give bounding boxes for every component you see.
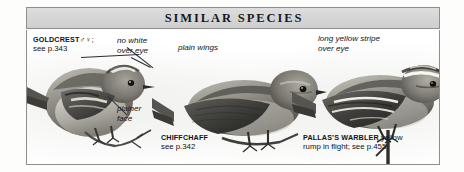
sex-symbols-goldcrest: ♂♀ bbox=[79, 35, 91, 44]
annotation-no-white-over-eye-line1: no white bbox=[117, 36, 148, 46]
annotation-plain-wings: plain wings bbox=[178, 43, 218, 53]
annotation-plain-wings-line1: plain wings bbox=[178, 43, 218, 53]
species-page-ref-pallass-warbler[interactable]: rump in flight; see p.455 bbox=[303, 142, 403, 151]
species-page-ref-goldcrest[interactable]: see p.343 bbox=[33, 44, 94, 53]
goldcrest-punct: ; bbox=[91, 35, 93, 44]
species-caption-pallass-warbler: PALLAS’S WARBLER yellow rump in flight; … bbox=[303, 133, 403, 152]
species-caption-goldcrest: GOLDCREST♂♀; see p.343 bbox=[33, 35, 94, 54]
annotation-long-yellow-stripe: long yellow stripe over eye bbox=[318, 34, 380, 54]
annotation-plainer-face: plainer face bbox=[117, 104, 141, 124]
similar-species-panel: SIMILAR SPECIES bbox=[0, 0, 464, 172]
species-name-pallass-warbler: PALLAS’S WARBLER bbox=[303, 133, 379, 142]
annotation-long-yellow-stripe-line2: over eye bbox=[318, 44, 380, 54]
annotation-plainer-face-line2: face bbox=[117, 114, 141, 124]
species-name-chiffchaff: CHIFFCHAFF bbox=[161, 133, 208, 142]
annotation-plainer-face-line1: plainer bbox=[117, 104, 141, 114]
annotation-no-white-over-eye-line2: over eye bbox=[117, 46, 148, 56]
pallass-warbler-yellow-word: yellow bbox=[381, 133, 403, 142]
species-name-goldcrest: GOLDCREST bbox=[33, 35, 79, 44]
goldcrest-illustration bbox=[26, 40, 169, 165]
panel-header: SIMILAR SPECIES bbox=[26, 7, 440, 29]
panel-title: SIMILAR SPECIES bbox=[163, 11, 304, 26]
species-caption-chiffchaff: CHIFFCHAFF see p.342 bbox=[161, 133, 208, 152]
species-page-ref-chiffchaff[interactable]: see p.342 bbox=[161, 142, 208, 151]
annotation-long-yellow-stripe-line1: long yellow stripe bbox=[318, 34, 380, 44]
annotation-no-white-over-eye: no white over eye bbox=[117, 36, 148, 56]
